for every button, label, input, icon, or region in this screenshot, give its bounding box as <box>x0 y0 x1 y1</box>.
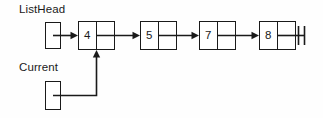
node-data-cell: 8 <box>260 22 278 49</box>
node-next-cell <box>278 22 296 49</box>
list-node: 4 <box>78 21 115 50</box>
listhead-label: ListHead <box>19 3 65 15</box>
list-node: 5 <box>140 21 177 50</box>
node-next-cell <box>218 22 236 49</box>
node-data-cell: 7 <box>200 22 218 49</box>
node-data-cell: 4 <box>79 22 97 49</box>
current-label: Current <box>19 61 58 73</box>
listhead-pointer-box <box>45 22 61 49</box>
list-node: 7 <box>199 21 236 50</box>
current-pointer-box <box>45 81 61 110</box>
list-node: 8 <box>259 21 296 50</box>
linked-list-diagram: ListHead Current 4 5 7 8 <box>0 0 323 118</box>
node-next-cell <box>97 22 115 49</box>
node-data-cell: 5 <box>141 22 159 49</box>
node-next-cell <box>159 22 177 49</box>
